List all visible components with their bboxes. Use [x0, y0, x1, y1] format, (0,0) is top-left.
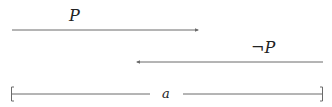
- arrowhead-right-icon: [195, 28, 199, 31]
- interval-a: a: [12, 86, 323, 101]
- not-p-arrow: ¬P: [136, 38, 323, 64]
- arrowhead-left-icon: [136, 60, 140, 63]
- not-p-label: ¬P: [251, 38, 275, 57]
- p-label: P: [68, 6, 80, 25]
- p-arrow: P: [12, 6, 199, 32]
- a-label: a: [162, 86, 170, 101]
- diagram-canvas: P ¬P a: [0, 0, 332, 107]
